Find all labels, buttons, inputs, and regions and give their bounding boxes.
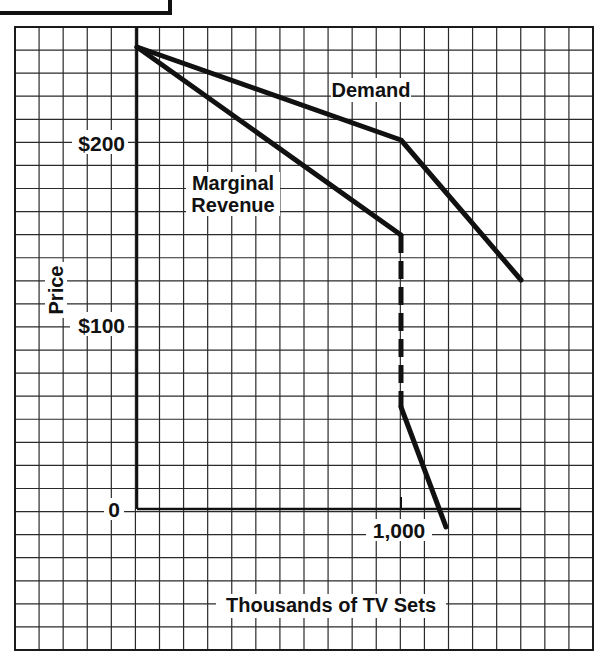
marginal-revenue-label-line2: Revenue xyxy=(191,194,274,216)
demand-curve xyxy=(137,47,521,280)
y-axis-title: Price xyxy=(45,266,67,315)
kinked-demand-chart: $200 $100 0 Price 1,000 Thousands of TV … xyxy=(0,0,596,662)
x-tick-label-1000: 1,000 xyxy=(373,519,426,542)
grid xyxy=(15,27,593,650)
y-tick-label-100: $100 xyxy=(78,314,125,337)
y-tick-label-200: $200 xyxy=(78,132,125,155)
marginal-revenue-label-line1: Marginal xyxy=(192,172,274,194)
demand-label: Demand xyxy=(332,79,411,101)
x-axis-title: Thousands of TV Sets xyxy=(226,594,436,616)
y-tick-label-0: 0 xyxy=(108,498,120,521)
header-box-border xyxy=(0,0,170,13)
